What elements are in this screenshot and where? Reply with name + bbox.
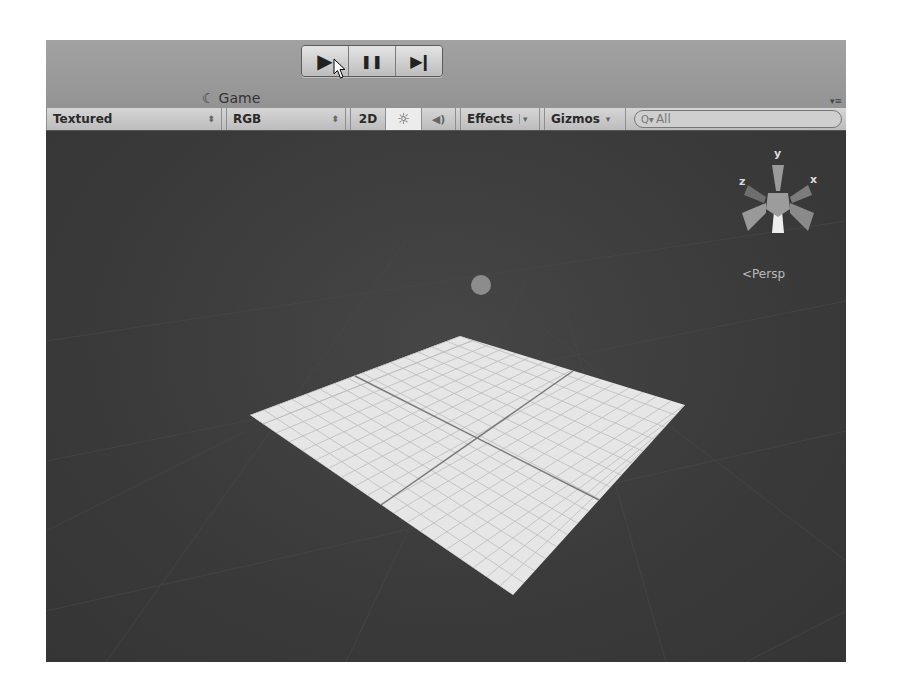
search-icon: Q▾ [641,114,654,125]
gizmo-axis-y-label: y [774,147,781,160]
unity-editor-window: ▶ ❚❚ ▶❙ # Scene ☾ Game ▾≡ Textured ⬍ R [46,40,846,662]
step-button[interactable]: ▶❙ [396,46,442,76]
render-mode-dropdown[interactable]: Textured ⬍ [46,108,222,130]
toggle-2d-button[interactable]: 2D [350,108,386,130]
color-mode-value: RGB [233,112,261,126]
game-pacman-icon: ☾ [202,90,215,106]
light-gizmo-icon[interactable] [471,275,491,295]
scene-viewport[interactable]: y z x <Persp [46,131,846,662]
play-controls: ▶ ❚❚ ▶❙ [301,45,443,77]
gizmos-dropdown[interactable]: Gizmos ▾ [544,108,626,130]
scene-lighting-toggle[interactable]: ☼ [386,108,422,130]
chevron-left-icon: < [742,267,752,281]
sun-icon: ☼ [397,110,410,128]
scene-audio-toggle[interactable]: ◀) [422,108,456,130]
gizmo-axis-z-label: z [739,175,745,188]
updown-arrow-icon: ⬍ [331,114,339,124]
dropdown-arrow-icon: ▾ [606,114,611,124]
orientation-gizmo[interactable] [742,165,814,233]
tab-game-label: Game [219,90,261,106]
scene-render [46,131,846,662]
render-mode-value: Textured [53,112,112,126]
panel-menu-icon[interactable]: ▾≡ [830,96,842,106]
pause-button[interactable]: ❚❚ [349,46,396,76]
speaker-icon: ◀) [432,113,446,126]
pause-icon: ❚❚ [361,54,383,69]
step-icon: ▶❙ [410,52,428,71]
mouse-cursor-icon [333,58,347,80]
toggle-2d-label: 2D [359,112,377,126]
gizmo-axis-x-label: x [810,173,817,186]
effects-dropdown[interactable]: Effects ▾ [460,108,540,130]
color-mode-dropdown[interactable]: RGB ⬍ [226,108,346,130]
play-icon: ▶ [317,49,332,73]
projection-label: Persp [752,267,785,281]
projection-toggle[interactable]: <Persp [742,267,785,281]
effects-label: Effects [467,112,513,126]
scene-toolbar: Textured ⬍ RGB ⬍ 2D ☼ ◀) Effects ▾ Gizmo… [46,108,846,131]
search-placeholder: All [656,112,671,126]
gizmos-label: Gizmos [551,112,600,126]
updown-arrow-icon: ⬍ [207,114,215,124]
editor-titlebar: ▶ ❚❚ ▶❙ # Scene ☾ Game ▾≡ [46,40,846,108]
dropdown-arrow-icon: ▾ [519,114,528,124]
hierarchy-search-input[interactable]: Q▾ All [634,110,842,128]
tab-game[interactable]: ☾ Game [202,88,260,108]
